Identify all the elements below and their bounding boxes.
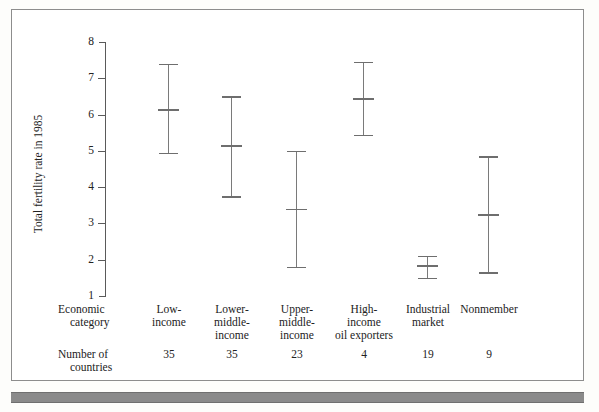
- category-table: Economic category Number of countries Lo…: [0, 0, 599, 412]
- row-header-line-1: Number of: [58, 348, 142, 361]
- country-count-lower-middle-income: 35: [202, 348, 262, 360]
- figure-page: 12345678 Total fertility rate in 1985 Ec…: [0, 0, 599, 412]
- category-label-line-2: market: [368, 316, 488, 329]
- country-count-nonmember: 9: [459, 348, 519, 360]
- country-count-low-income: 35: [139, 348, 199, 360]
- country-count-industrial-market: 19: [398, 348, 458, 360]
- row-header-line-2: countries: [58, 361, 142, 374]
- category-label-line-3: oil exporters: [304, 329, 424, 342]
- row-header-number-of-countries: Number of countries: [58, 348, 142, 374]
- category-label-line-1: Nonmember: [429, 303, 549, 316]
- country-count-upper-middle-income: 23: [267, 348, 327, 360]
- category-label-nonmember: Nonmember: [429, 303, 549, 316]
- country-count-high-income-oil-exporters: 4: [334, 348, 394, 360]
